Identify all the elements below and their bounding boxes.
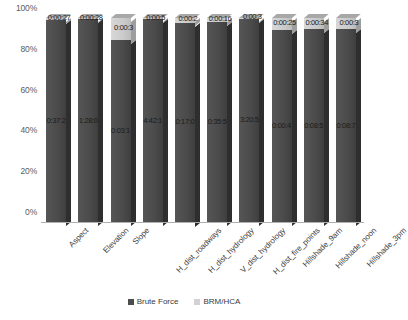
- y-axis-tick: 60%: [21, 85, 37, 95]
- y-axis-tick: 0%: [25, 207, 37, 217]
- data-label-brm-hca: 0:00:3: [340, 19, 359, 27]
- data-label-brm-hca: 0:00:16: [209, 15, 232, 23]
- bar-side-face: [324, 29, 329, 226]
- bar-top-face: [111, 14, 136, 18]
- data-label-brute-force: 0:08:5: [304, 122, 323, 130]
- legend-swatch-icon: [194, 299, 200, 305]
- data-label-brute-force: 0:08:7: [337, 122, 356, 130]
- bar-side-face: [259, 19, 264, 226]
- bar-column[interactable]: [272, 18, 292, 222]
- data-label-brm-hca: 0:00:34: [305, 19, 328, 27]
- legend-label: BRM/HCA: [203, 297, 240, 306]
- data-label-brute-force: 4:42:1: [143, 117, 162, 125]
- data-label-brute-force: 3:20:5: [240, 117, 259, 125]
- x-axis-tick: Slope: [130, 226, 150, 246]
- data-label-brm-hca: 0:00:2: [179, 15, 198, 23]
- bar-side-face: [131, 41, 136, 226]
- legend-item[interactable]: Brute Force: [128, 297, 179, 306]
- bar-stack: [111, 18, 131, 222]
- x-axis-tick: Elevation: [102, 226, 131, 255]
- bar-column[interactable]: [111, 18, 131, 222]
- data-label-brute-force: 1:28:0: [79, 117, 98, 125]
- bar-side-face: [227, 22, 232, 226]
- bar-side-face: [66, 20, 71, 226]
- x-axis-line: [41, 222, 364, 223]
- bar-stack: [272, 18, 292, 222]
- data-label-brute-force: 0:00:4: [272, 122, 291, 130]
- data-label-brm-hca: 0:00:28: [80, 14, 103, 22]
- bar-side-face: [98, 20, 103, 226]
- y-axis-tick: 20%: [21, 166, 37, 176]
- bar-side-face: [356, 29, 361, 226]
- y-axis-tick: 40%: [21, 125, 37, 135]
- chart-legend: Brute ForceBRM/HCA: [0, 297, 368, 306]
- data-label-brute-force: 0:37:2: [47, 117, 66, 125]
- plot-area: 0%20%40%60%80%100%0:37:20:00:271:28:00:0…: [41, 18, 363, 222]
- bar-side-face: [163, 19, 168, 226]
- x-axis-tick: Aspect: [67, 226, 90, 249]
- data-label-brute-force: 0:17:0: [176, 118, 195, 126]
- bar-side-face: [292, 30, 297, 226]
- data-label-brm-hca: 0:00:3: [114, 24, 133, 32]
- data-label-brute-force: 0:35:5: [208, 118, 227, 126]
- data-label-brm-hca: 0:00:5: [146, 14, 165, 22]
- data-label-brm-hca: 0:00:3: [243, 14, 262, 22]
- y-axis-tick: 80%: [21, 44, 37, 54]
- data-label-brm-hca: 0:00:27: [48, 14, 71, 22]
- data-label-brm-hca: 0:00:25: [273, 19, 296, 27]
- legend-item[interactable]: BRM/HCA: [194, 297, 240, 306]
- legend-label: Brute Force: [137, 297, 179, 306]
- legend-swatch-icon: [128, 299, 134, 305]
- y-axis-tick: 100%: [16, 3, 37, 13]
- bar-side-face: [195, 23, 200, 226]
- data-label-brute-force: 0:03:1: [111, 127, 130, 135]
